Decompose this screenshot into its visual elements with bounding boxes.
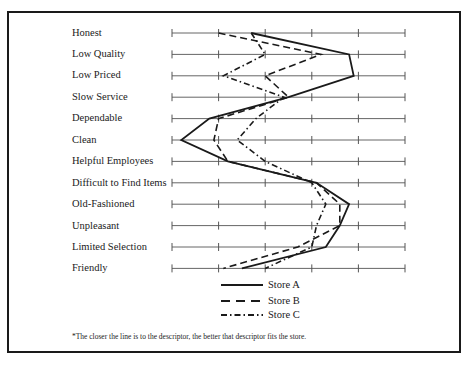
legend-label-store-a: Store A — [268, 279, 300, 291]
store-series — [181, 33, 353, 268]
legend-label-store-b: Store B — [268, 295, 300, 307]
series-line-store-c — [223, 33, 325, 268]
footnote: *The closer the line is to the descripto… — [72, 332, 306, 342]
profile-chart — [0, 0, 472, 366]
scale-axes — [172, 29, 405, 272]
legend-swatches — [221, 285, 263, 315]
legend-label-store-c: Store C — [268, 309, 300, 321]
series-line-store-a — [181, 33, 353, 268]
series-line-store-b — [214, 33, 340, 268]
